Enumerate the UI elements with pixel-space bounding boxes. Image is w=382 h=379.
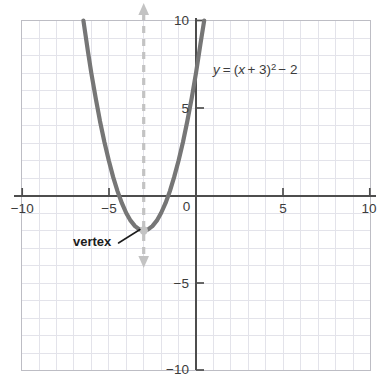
x-tick-label--5: −5 <box>101 201 116 216</box>
graph-figure: vertex y=(x+ 3)2− 2 −10 −5 0 5 10 10 5 −… <box>0 0 382 379</box>
equation-plus-three: + 3 <box>247 62 266 77</box>
y-tick-label--5: −5 <box>174 276 189 291</box>
parabola-chart-svg: vertex y=(x+ 3)2− 2 −10 −5 0 5 10 10 5 −… <box>0 0 382 379</box>
y-tick-label-5: 5 <box>181 101 189 116</box>
x-tick-label-10: 10 <box>361 201 376 216</box>
x-tick-label-0: 0 <box>183 199 191 214</box>
y-tick-label-10: 10 <box>174 13 189 28</box>
vertex-annotation-label: vertex <box>73 234 112 249</box>
vertex-marker <box>140 226 148 234</box>
equation-x: x <box>237 62 246 77</box>
equation-equals: = <box>223 62 231 77</box>
equation-label: y=(x+ 3)2− 2 <box>212 61 298 78</box>
x-tick-label--10: −10 <box>11 201 34 216</box>
chart-background <box>0 0 382 379</box>
equation-y: y <box>212 62 221 77</box>
y-tick-label--10: −10 <box>166 362 189 377</box>
x-tick-label-5: 5 <box>279 201 287 216</box>
equation-minus-two: − 2 <box>278 62 297 77</box>
equation-exponent: 2 <box>271 61 276 72</box>
